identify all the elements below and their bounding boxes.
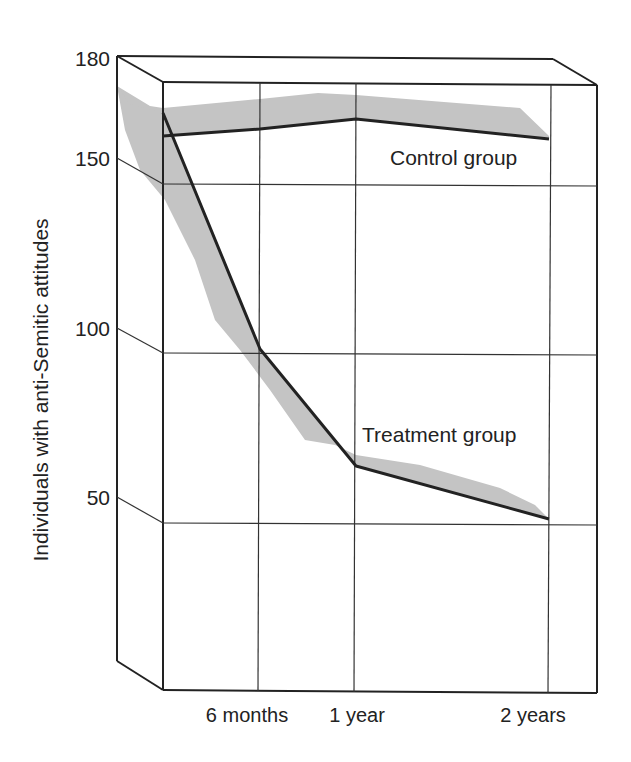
y-tick-180: 180 [75, 47, 110, 70]
y-tick-150: 150 [75, 147, 110, 170]
grid-6m [258, 83, 260, 691]
y-axis-ticks: 180 150 100 50 [75, 47, 110, 509]
treatment-group-label: Treatment group [362, 423, 516, 446]
x-tick-1-year: 1 year [329, 704, 385, 726]
x-tick-6-months: 6 months [206, 704, 288, 726]
y-tick-50: 50 [87, 486, 110, 509]
grid-150 [163, 184, 597, 186]
grid-1y [354, 83, 356, 692]
grid-100 [163, 353, 597, 355]
x-axis-ticks: 6 months 1 year 2 years [206, 704, 566, 726]
grid-50 [163, 523, 597, 525]
y-axis-title: Individuals with anti-Semitic attitudes [29, 218, 52, 561]
grid-2y [548, 85, 551, 693]
control-group-label: Control group [390, 146, 517, 169]
box-frame [117, 56, 597, 693]
x-tick-2-years: 2 years [500, 704, 566, 726]
y-tick-100: 100 [75, 317, 110, 340]
chart-canvas: 180 150 100 50 Individuals with anti-Sem… [0, 0, 631, 762]
